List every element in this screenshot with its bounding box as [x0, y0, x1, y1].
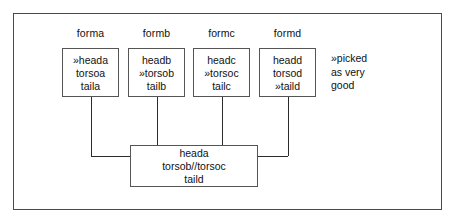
connector-drop-forma	[91, 97, 92, 156]
merged-line-tail: taild	[184, 173, 203, 186]
node-line-torso: torsod	[273, 67, 302, 80]
node-line-head: headb	[142, 54, 171, 67]
column-label-formc: formc	[193, 27, 250, 40]
node-box-merged: heada torsob//torsoc taild	[130, 145, 258, 187]
node-line-tail: »taild	[275, 80, 300, 93]
merged-line-head: heada	[179, 147, 208, 160]
node-line-head: headc	[207, 54, 236, 67]
node-line-tail: taila	[81, 80, 100, 93]
merged-line-torso: torsob//torsoc	[162, 160, 226, 173]
node-line-torso: »torsoc	[204, 67, 238, 80]
column-formc: formc headc »torsoc tailc	[193, 27, 250, 97]
column-formb: formb headb »torsob tailb	[128, 27, 185, 97]
node-line-tail: tailc	[212, 80, 231, 93]
node-line-torso: torsoa	[76, 67, 105, 80]
annotation-line-1: »picked	[331, 52, 401, 66]
node-line-tail: tailb	[147, 80, 166, 93]
column-label-forma: forma	[62, 27, 119, 40]
column-label-formb: formb	[128, 27, 185, 40]
annotation-line-2: as very	[331, 66, 401, 80]
annotation-note: »picked as very good	[331, 52, 401, 93]
connector-drop-formd	[288, 97, 289, 156]
column-formd: formd headd torsod »taild	[259, 27, 316, 97]
node-line-torso: »torsob	[139, 67, 174, 80]
node-box-formb: headb »torsob tailb	[128, 48, 185, 97]
column-label-formd: formd	[259, 27, 316, 40]
node-line-head: headd	[273, 54, 302, 67]
figure-canvas: forma »heada torsoa taila formb headb »t…	[0, 0, 454, 223]
column-forma: forma »heada torsoa taila	[62, 27, 119, 97]
node-line-head: »heada	[73, 54, 108, 67]
node-box-forma: »heada torsoa taila	[62, 48, 119, 97]
node-box-formc: headc »torsoc tailc	[193, 48, 250, 97]
node-box-formd: headd torsod »taild	[259, 48, 316, 97]
annotation-line-3: good	[331, 79, 401, 93]
